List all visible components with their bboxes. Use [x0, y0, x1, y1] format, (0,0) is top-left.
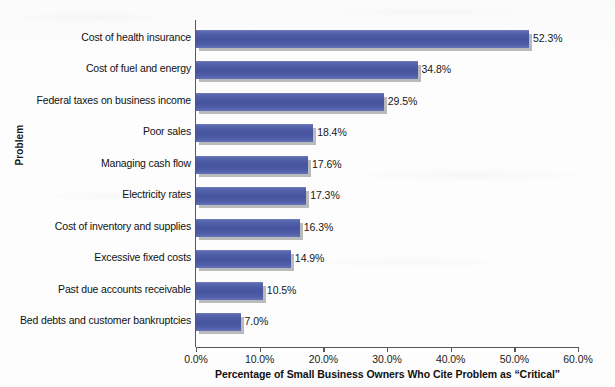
bar[interactable] — [196, 187, 306, 205]
bar-row: 14.9% — [196, 248, 578, 280]
bar[interactable] — [196, 156, 308, 174]
bar-row: 17.3% — [196, 185, 578, 217]
x-tick-label: 30.0% — [372, 353, 401, 365]
category-label: Cost of inventory and supplies — [6, 220, 196, 232]
bar-value-label: 17.3% — [310, 187, 340, 204]
bar-row: 34.8% — [196, 59, 578, 91]
bar[interactable] — [196, 313, 241, 331]
bar-row: 10.5% — [196, 280, 578, 312]
x-tick-mark — [260, 347, 261, 352]
category-label: Cost of fuel and energy — [6, 62, 196, 74]
category-label: Managing cash flow — [6, 157, 196, 169]
category-label: Past due accounts receivable — [6, 283, 196, 295]
bar-value-label: 52.3% — [533, 30, 563, 47]
category-label: Poor sales — [6, 125, 196, 137]
x-tick-label: 40.0% — [436, 353, 465, 365]
x-tick-label: 0.0% — [184, 353, 208, 365]
x-tick-label: 20.0% — [309, 353, 338, 365]
x-tick-label: 10.0% — [245, 353, 274, 365]
x-axis-title: Percentage of Small Business Owners Who … — [196, 368, 579, 380]
bar-value-label: 7.0% — [245, 313, 269, 330]
x-tick-mark — [578, 347, 579, 352]
category-label: Bed debts and customer bankruptcies — [6, 314, 196, 326]
category-label: Cost of health insurance — [6, 31, 196, 43]
bar-value-label: 34.8% — [422, 61, 452, 78]
bar-row: 17.6% — [196, 154, 578, 186]
bar-row: 29.5% — [196, 91, 578, 123]
bar[interactable] — [196, 93, 384, 111]
category-label: Electricity rates — [6, 188, 196, 200]
x-tick-mark — [387, 347, 388, 352]
bar-value-label: 18.4% — [317, 124, 347, 141]
bar[interactable] — [196, 250, 291, 268]
x-tick-label: 50.0% — [500, 353, 529, 365]
x-tick-label: 60.0% — [563, 353, 592, 365]
bar[interactable] — [196, 282, 263, 300]
bar-chart-figure: Problem Cost of health insuranceCost of … — [0, 0, 615, 387]
x-tick-mark — [514, 347, 515, 352]
bar-value-label: 16.3% — [304, 219, 334, 236]
plot-area: 52.3%34.8%29.5%18.4%17.6%17.3%16.3%14.9%… — [196, 20, 578, 347]
bar-row: 52.3% — [196, 28, 578, 60]
x-tick-mark — [323, 347, 324, 352]
category-label-group: Cost of health insuranceCost of fuel and… — [0, 20, 196, 347]
bar-value-label: 17.6% — [312, 156, 342, 173]
bar[interactable] — [196, 124, 313, 142]
x-tick-mark — [196, 347, 197, 352]
bar[interactable] — [196, 219, 300, 237]
category-label: Excessive fixed costs — [6, 251, 196, 263]
bar-row: 16.3% — [196, 217, 578, 249]
bar-value-label: 14.9% — [295, 250, 325, 267]
bar-value-label: 10.5% — [267, 282, 297, 299]
bar-row: 18.4% — [196, 122, 578, 154]
category-label: Federal taxes on business income — [6, 94, 196, 106]
bar[interactable] — [196, 30, 529, 48]
bar-row: 7.0% — [196, 311, 578, 343]
bar[interactable] — [196, 61, 418, 79]
x-tick-mark — [451, 347, 452, 352]
bar-value-label: 29.5% — [388, 93, 418, 110]
